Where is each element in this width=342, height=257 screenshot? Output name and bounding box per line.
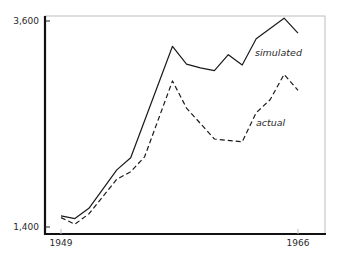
y-tick-label-bottom: 1,400 [13, 222, 39, 232]
x-tick-label-start: 1949 [50, 238, 73, 248]
line-chart: 3,600 1,400 1949 1966 simulated actual [0, 0, 342, 257]
series-label-simulated: simulated [255, 47, 303, 58]
y-tick-label-top: 3,600 [13, 16, 39, 26]
series-label-actual: actual [256, 117, 286, 128]
series-line-actual [61, 74, 298, 224]
x-tick-label-end: 1966 [287, 238, 310, 248]
